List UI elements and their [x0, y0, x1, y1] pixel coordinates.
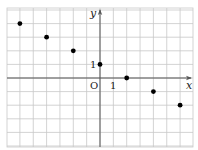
data-point: [44, 35, 49, 40]
data-point: [98, 62, 103, 67]
x-tick-label: 1: [110, 80, 116, 91]
y-axis-label: y: [89, 7, 97, 20]
data-point: [71, 48, 76, 53]
data-point: [18, 21, 23, 26]
data-point: [178, 103, 183, 108]
x-axis-label: x: [186, 79, 193, 92]
y-tick-label: 1: [90, 59, 96, 70]
scatter-chart: x y O 1 1: [0, 0, 198, 150]
axes: [7, 9, 192, 147]
data-point: [124, 76, 129, 81]
data-point: [151, 89, 156, 94]
origin-label: O: [90, 80, 98, 91]
